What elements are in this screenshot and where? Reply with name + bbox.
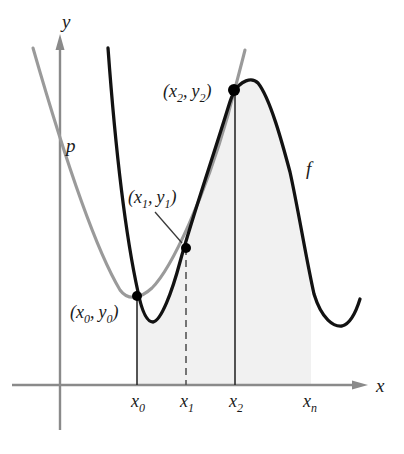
p1-comma: ,: [148, 187, 153, 207]
p2-comma: ,: [183, 81, 188, 101]
svg-text:x1: x1: [179, 391, 194, 415]
curve-label-p: p: [64, 135, 76, 156]
svg-text:x0: x0: [130, 391, 145, 415]
tick-xn-subscript: n: [311, 401, 317, 415]
p0-y-var: y: [97, 302, 107, 322]
tick-x0-subscript: 0: [139, 401, 145, 415]
p1-close-paren: ): [170, 187, 177, 208]
tick-x1-var: x: [179, 391, 188, 411]
svg-text:(x0,y0): (x0,y0): [70, 302, 119, 326]
y-axis-arrowhead: [56, 34, 65, 50]
tick-x2-var: x: [228, 391, 237, 411]
p0-comma: ,: [90, 302, 95, 322]
tick-label-x0: x0: [130, 391, 145, 415]
point-marker-p2: [228, 84, 240, 96]
p0-x-var: x: [75, 302, 84, 322]
y-axis-label: y: [60, 11, 71, 32]
point-label-p2: (x2,y2): [163, 81, 212, 105]
x-axis-arrowhead: [352, 381, 368, 390]
point-label-p1: (x1,y1): [128, 187, 177, 211]
tick-label-xn: xn: [302, 391, 317, 415]
tick-label-x2: x2: [228, 391, 243, 415]
p2-x-var: x: [168, 81, 177, 101]
p1-x-var: x: [133, 187, 142, 207]
point-marker-p0: [132, 291, 142, 301]
svg-text:x2: x2: [228, 391, 243, 415]
tick-label-x1: x1: [179, 391, 194, 415]
svg-text:xn: xn: [302, 391, 317, 415]
curve-label-f: f: [306, 158, 314, 179]
p0-close-paren: ): [112, 302, 119, 323]
math-figure: y x p f (x0,y0) (x1,y1) (x2,y2) x0 x1 x2: [0, 0, 404, 454]
p2-y-var: y: [190, 81, 200, 101]
svg-text:(x1,y1): (x1,y1): [128, 187, 177, 211]
point-marker-p1: [181, 243, 191, 253]
p2-close-paren: ): [205, 81, 212, 102]
tick-x1-subscript: 1: [188, 401, 194, 415]
p1-y-var: y: [155, 187, 165, 207]
leader-line-p1: [155, 212, 182, 243]
point-label-p0: (x0,y0): [70, 302, 119, 326]
x-axis-label: x: [375, 375, 385, 396]
svg-text:(x2,y2): (x2,y2): [163, 81, 212, 105]
tick-xn-var: x: [302, 391, 311, 411]
tick-x2-subscript: 2: [237, 401, 243, 415]
tick-x0-var: x: [130, 391, 139, 411]
